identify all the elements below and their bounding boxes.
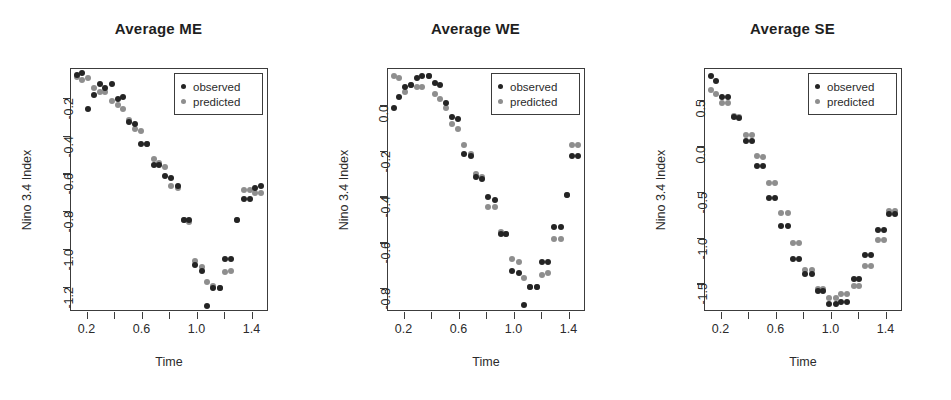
legend-marker-predicted-icon xyxy=(181,99,186,104)
data-point-observed xyxy=(856,276,862,282)
chart-legend: observedpredicted xyxy=(174,73,263,115)
data-point-observed xyxy=(419,73,425,79)
data-point-predicted xyxy=(85,75,91,81)
y-axis-tick-label: -0.6 xyxy=(62,173,76,195)
legend-item-predicted: predicted xyxy=(181,94,254,109)
data-point-observed xyxy=(492,197,498,203)
chart-panel-1: Average ME-0.2-0.4-0.6-0.8-1.0-1.20.20.6… xyxy=(0,0,317,400)
data-point-observed xyxy=(186,217,192,223)
data-point-predicted xyxy=(485,204,491,210)
x-axis-tick xyxy=(197,312,198,319)
chart-legend: observedpredicted xyxy=(808,73,897,115)
x-axis-tick-label: 0.6 xyxy=(767,322,784,336)
data-point-predicted xyxy=(796,240,802,246)
data-point-observed xyxy=(886,211,892,217)
data-point-observed xyxy=(156,162,162,168)
data-point-observed xyxy=(85,106,91,112)
data-point-observed xyxy=(516,270,522,276)
chart-legend: observedpredicted xyxy=(491,73,580,115)
legend-label: predicted xyxy=(193,96,240,108)
y-axis-tick-label: -0.4 xyxy=(379,196,393,218)
data-point-observed xyxy=(402,84,408,90)
data-point-observed xyxy=(881,227,887,233)
data-point-observed xyxy=(564,192,570,198)
data-point-predicted xyxy=(575,142,581,148)
data-point-observed xyxy=(826,301,832,307)
data-point-predicted xyxy=(785,210,791,216)
data-point-observed xyxy=(838,299,844,305)
data-point-predicted xyxy=(455,126,461,132)
legend-label: observed xyxy=(827,81,874,93)
data-point-observed xyxy=(199,268,205,274)
data-point-observed xyxy=(247,196,253,202)
data-point-predicted xyxy=(252,190,258,196)
data-point-observed xyxy=(234,217,240,223)
y-axis-tick-label: -1.5 xyxy=(696,283,710,305)
data-point-observed xyxy=(820,288,826,294)
data-point-observed xyxy=(539,259,545,265)
data-point-observed xyxy=(228,256,234,262)
data-point-observed xyxy=(749,138,755,144)
legend-marker-observed-icon xyxy=(815,84,820,89)
x-axis-tick xyxy=(776,312,777,319)
data-point-predicted xyxy=(778,210,784,216)
data-point-predicted xyxy=(396,75,402,81)
data-point-observed xyxy=(204,303,210,309)
chart-panel-3: Average SE0.50.0-0.5-1.0-1.50.20.61.01.4… xyxy=(634,0,951,400)
data-point-predicted xyxy=(228,268,234,274)
data-point-predicted xyxy=(569,142,575,148)
data-point-observed xyxy=(534,284,540,290)
data-point-observed xyxy=(802,271,808,277)
data-point-observed xyxy=(222,256,228,262)
data-point-observed xyxy=(743,138,749,144)
data-point-observed xyxy=(521,302,527,308)
x-axis-tick xyxy=(252,312,253,319)
data-point-predicted xyxy=(719,100,725,106)
data-point-observed xyxy=(473,174,479,180)
legend-item-predicted: predicted xyxy=(498,94,571,109)
data-point-predicted xyxy=(449,121,455,127)
x-axis-tick xyxy=(169,312,170,319)
x-axis-tick xyxy=(514,312,515,319)
data-point-predicted xyxy=(241,187,247,193)
legend-marker-observed-icon xyxy=(181,84,186,89)
data-point-predicted xyxy=(545,270,551,276)
x-axis-tick xyxy=(858,312,859,319)
data-point-observed xyxy=(503,231,509,237)
legend-label: predicted xyxy=(510,96,557,108)
data-point-predicted xyxy=(868,263,874,269)
data-point-observed xyxy=(437,82,443,88)
legend-item-observed: observed xyxy=(498,79,571,94)
data-point-observed xyxy=(862,252,868,258)
data-point-observed xyxy=(485,194,491,200)
data-point-observed xyxy=(258,183,264,189)
data-point-predicted xyxy=(725,100,731,106)
legend-label: predicted xyxy=(827,96,874,108)
data-point-observed xyxy=(479,176,485,182)
y-axis-label: Nino 3.4 Index xyxy=(654,149,668,230)
data-point-predicted xyxy=(551,236,557,242)
data-point-observed xyxy=(396,94,402,100)
data-point-observed xyxy=(449,114,455,120)
data-point-observed xyxy=(79,70,85,76)
data-point-observed xyxy=(809,271,815,277)
data-point-predicted xyxy=(492,204,498,210)
legend-label: observed xyxy=(510,81,557,93)
x-axis-tick xyxy=(831,312,832,319)
data-point-observed xyxy=(91,92,97,98)
data-point-observed xyxy=(217,285,223,291)
data-point-predicted xyxy=(856,283,862,289)
x-axis-tick xyxy=(459,312,460,319)
data-point-observed xyxy=(892,211,898,217)
y-axis-tick-label: 0.5 xyxy=(694,100,708,117)
y-axis-label: Nino 3.4 Index xyxy=(337,149,351,230)
x-axis-tick-label: 1.0 xyxy=(188,322,205,336)
data-point-observed xyxy=(868,252,874,258)
data-point-observed xyxy=(875,227,881,233)
x-axis-tick-label: 1.0 xyxy=(822,322,839,336)
data-point-predicted xyxy=(204,279,210,285)
data-point-observed xyxy=(468,153,474,159)
x-axis-tick-label: 1.4 xyxy=(243,322,260,336)
data-point-predicted xyxy=(760,154,766,160)
legend-item-observed: observed xyxy=(181,79,254,94)
